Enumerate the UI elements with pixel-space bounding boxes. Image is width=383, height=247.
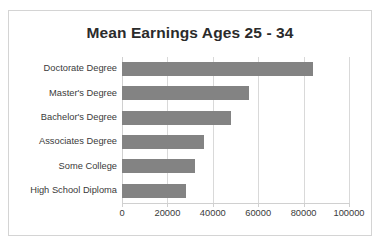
category-label: Some College: [13, 161, 117, 171]
bar-row[interactable]: [122, 130, 349, 154]
category-label: Doctorate Degree: [13, 63, 117, 73]
chart-title: Mean Earnings Ages 25 - 34: [9, 24, 371, 42]
bar[interactable]: [122, 184, 186, 198]
bar[interactable]: [122, 62, 313, 76]
bar[interactable]: [122, 135, 204, 149]
category-label: Master's Degree: [13, 88, 117, 98]
x-tick-label: 60000: [245, 208, 271, 218]
x-tick-label: 40000: [200, 208, 226, 218]
tick-mark-80000: [304, 203, 305, 207]
tick-mark-0: [122, 203, 123, 207]
bar[interactable]: [122, 159, 195, 173]
plot-area: [122, 57, 349, 203]
x-axis-line: [122, 203, 349, 204]
tick-mark-60000: [258, 203, 259, 207]
category-label: Bachelor's Degree: [13, 112, 117, 122]
bar[interactable]: [122, 86, 249, 100]
tick-mark-40000: [213, 203, 214, 207]
chart-frame: Mean Earnings Ages 25 - 34 Doctorate Deg…: [8, 10, 372, 236]
x-tick-label: 20000: [154, 208, 180, 218]
tick-mark-100000: [349, 203, 350, 207]
x-tick-label: 80000: [291, 208, 317, 218]
tick-mark-20000: [167, 203, 168, 207]
bar[interactable]: [122, 111, 231, 125]
x-tick-label: 100000: [333, 208, 364, 218]
bar-row[interactable]: [122, 154, 349, 178]
x-tick-label: 0: [119, 208, 124, 218]
bar-row[interactable]: [122, 106, 349, 130]
bar-row[interactable]: [122, 81, 349, 105]
category-label: High School Diploma: [13, 185, 117, 195]
bar-row[interactable]: [122, 179, 349, 203]
bar-row[interactable]: [122, 57, 349, 81]
category-label: Associates Degree: [13, 136, 117, 146]
gridline-100000: [349, 57, 350, 203]
